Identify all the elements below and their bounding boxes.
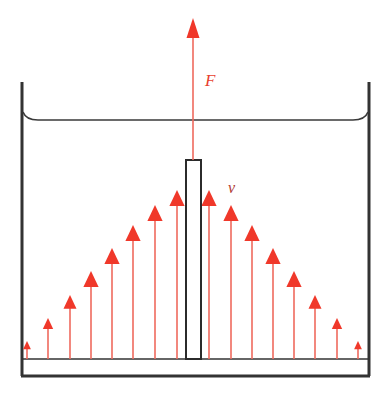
velocity-arrow-13-head xyxy=(286,271,301,287)
diagram-canvas xyxy=(0,0,392,402)
force-arrow-head xyxy=(187,18,200,38)
velocity-arrow-12-head xyxy=(265,248,280,264)
velocity-label: v xyxy=(228,179,235,197)
velocity-arrow-11-head xyxy=(244,225,259,241)
velocity-arrow-15-head xyxy=(332,318,342,329)
velocity-arrow-8-head xyxy=(169,190,184,206)
velocity-arrow-14-head xyxy=(309,295,322,309)
vertical-plate xyxy=(186,160,201,359)
velocity-arrow-4-head xyxy=(83,271,98,287)
velocity-arrow-16-head xyxy=(354,341,362,349)
velocity-arrow-2-head xyxy=(43,318,53,329)
liquid-surface-line xyxy=(23,112,368,120)
velocity-arrow-7-head xyxy=(147,205,162,221)
velocity-arrow-10-head xyxy=(223,205,238,221)
physics-diagram-figure: F v xyxy=(0,0,392,402)
velocity-arrow-5-head xyxy=(104,248,119,264)
force-label: F xyxy=(205,71,215,91)
velocity-arrow-9-head xyxy=(201,190,216,206)
velocity-arrow-6-head xyxy=(125,225,140,241)
velocity-arrow-3-head xyxy=(64,295,77,309)
velocity-arrow-1-head xyxy=(23,341,31,349)
